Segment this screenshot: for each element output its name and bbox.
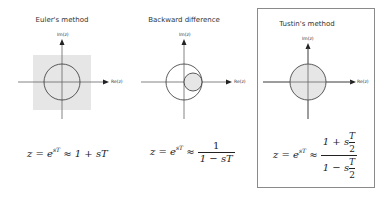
backward-stable-region: [184, 73, 202, 91]
tustin-re-label: Re(z): [357, 79, 369, 84]
tustin-z-plane: [257, 0, 392, 130]
euler-z-plane: [0, 0, 130, 130]
backward-panel: Backward difference Re(z) Im(z) z = esT …: [125, 0, 257, 200]
tustin-panel: Tustin's method Re(z) Im(z) z = esT ≈ 1 …: [257, 0, 392, 200]
backward-im-label: Im(z): [179, 32, 191, 37]
backward-z-plane: [125, 0, 257, 130]
tustin-equation: z = esT ≈ 1 + sT2 1 − sT2: [273, 130, 357, 181]
tustin-im-label: Im(z): [302, 36, 314, 41]
euler-equation: z = esT ≈ 1 + sT: [27, 146, 108, 159]
euler-re-label: Re(z): [111, 79, 123, 84]
backward-re-label: Re(z): [234, 79, 246, 84]
euler-im-label: Im(z): [57, 32, 69, 37]
backward-equation: z = esT ≈ 11 − sT: [150, 140, 235, 165]
euler-panel: Euler's method Re(z) Im(z) z = esT ≈ 1 +…: [0, 0, 130, 200]
